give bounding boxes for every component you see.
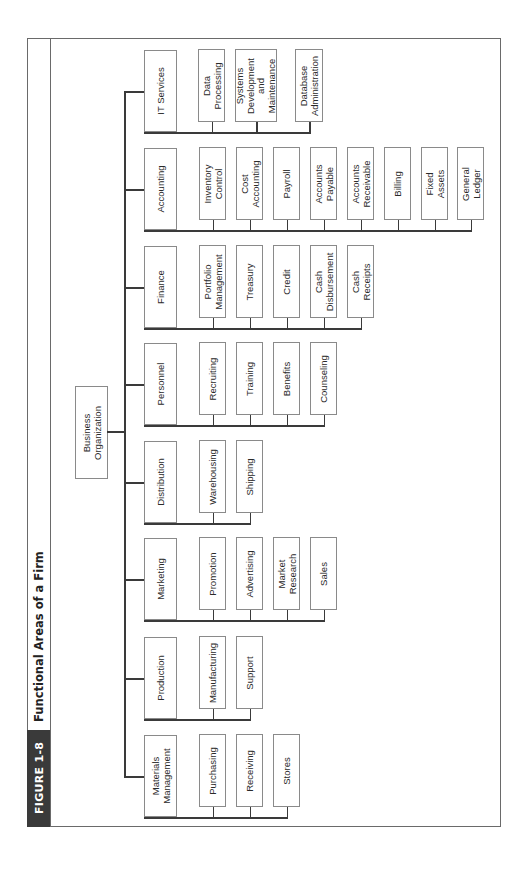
sub-function-box-label: Portfolio Management [202,254,223,309]
sub-function-box-label: Systems Development and Maintenance [235,58,277,114]
dept-bus [144,328,362,330]
sub-function-box: Portfolio Management [199,245,226,318]
dept-box-label: Personnel [155,363,166,406]
dept-box: Finance [144,246,177,328]
sub-function-box-label: Credit [281,269,292,294]
sub-function-box: General Ledger [457,147,484,220]
sub-function-box: Credit [273,245,300,318]
sub-function-box-label: Cash Disbursement [313,252,334,311]
dept-bus [144,425,325,427]
sub-function-box: Counseling [310,342,337,415]
sub-function-box: Accounts Receivable [347,147,374,220]
sub-function-box-label: Treasury [244,263,255,300]
dept-box-label: IT Services [155,67,166,114]
dept-box: Distribution [144,441,177,523]
dept-box-label: Production [155,655,166,700]
sub-function-box: Receiving [236,734,263,807]
dept-stub [124,287,144,289]
dept-stub [124,579,144,581]
sub-function-box-label: Stores [281,757,292,784]
dept-bus [144,719,251,721]
sub-function-box-label: Sales [318,562,329,586]
sub-function-box-label: Receiving [244,750,255,792]
sub-function-box: Accounts Payable [310,147,337,220]
sub-function-box: Market Research [273,537,300,610]
dept-stub [124,384,144,386]
dept-stub [124,482,144,484]
sub-function-box-label: General Ledger [460,167,481,201]
dept-bus [144,523,251,525]
sub-function-box-label: Manufacturing [207,642,218,702]
sub-function-box: Data Processing [198,49,225,122]
dept-stub [124,776,144,778]
sub-function-box-label: Benefits [281,361,292,395]
sub-function-box: Manufacturing [199,636,226,709]
dept-box: IT Services [144,50,177,132]
sub-function-box-label: Payroll [281,169,292,198]
sub-function-box: Stores [273,734,300,807]
dept-box-label: Distribution [155,458,166,506]
dept-stub [124,91,144,93]
sub-function-box: Recruiting [199,342,226,415]
dept-box: Marketing [144,538,177,620]
sub-function-box-label: Advertising [244,550,255,597]
dept-box-label: Marketing [155,558,166,600]
root-box-label: Business Organization [81,406,102,460]
dept-bus [144,230,472,232]
dept-box-label: Finance [155,270,166,304]
sub-function-box-label: Database Administration [299,55,320,115]
sub-function-box: Benefits [273,342,300,415]
sub-function-box-label: Counseling [318,355,329,403]
sub-function-box: Promotion [199,537,226,610]
root-box: Business Organization [75,386,108,479]
dept-box: Accounting [144,148,177,230]
sub-function-box: Sales [310,537,337,610]
sub-function-box: Treasury [236,245,263,318]
sub-function-box: Cash Receipts [347,245,374,318]
sub-function-box-label: Recruiting [207,357,218,400]
title-strip-divider [50,38,51,827]
sub-function-box: Cost Accounting [236,147,263,220]
sub-function-box-label: Purchasing [207,747,218,795]
sub-function-box: Purchasing [199,734,226,807]
sub-function-box-label: Billing [392,171,403,196]
sub-function-box: Training [236,342,263,415]
sub-function-box: Systems Development and Maintenance [235,49,277,122]
dept-stub [124,678,144,680]
dept-box-label: Accounting [155,165,166,212]
sub-function-box: Payroll [273,147,300,220]
main-spine [124,91,126,777]
sub-function-box-label: Promotion [207,552,218,595]
sub-function-box-label: Fixed Assets [424,169,445,198]
sub-function-box-label: Accounts Receivable [350,160,371,207]
dept-box: Personnel [144,343,177,425]
sub-function-box: Fixed Assets [421,147,448,220]
sub-function-box-label: Cost Accounting [239,160,260,207]
sub-function-box: Support [236,636,263,709]
sub-function-box-label: Cash Receipts [350,263,371,300]
figure-title: Functional Areas of a Firm [32,551,46,722]
sub-function-box-label: Training [244,362,255,396]
sub-function-box-label: Support [244,656,255,689]
dept-bus [144,620,325,622]
figure-number-badge: FIGURE 1-8 [27,730,50,827]
sub-function-box: Database Administration [295,49,323,122]
dept-bus [144,817,288,819]
sub-function-box-label: Warehousing [207,449,218,505]
sub-function-box-label: Shipping [244,458,255,495]
dept-stub [124,189,144,191]
sub-function-box-label: Accounts Payable [313,164,334,203]
dept-box-label: Materials Management [150,748,171,803]
sub-function-box: Advertising [236,537,263,610]
dept-box: Materials Management [144,735,177,817]
sub-function-box: Warehousing [199,440,226,513]
sub-function-box-label: Inventory Control [202,164,223,203]
sub-function-box: Inventory Control [199,147,226,220]
sub-function-box: Billing [384,147,411,220]
sub-function-box: Shipping [236,440,263,513]
sub-function-box-label: Data Processing [201,62,222,109]
dept-box: Production [144,637,177,719]
root-connector [107,431,125,433]
dept-bus [144,132,311,134]
sub-function-box-label: Market Research [276,553,297,594]
